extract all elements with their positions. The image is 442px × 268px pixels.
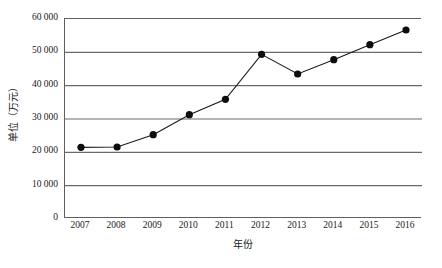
x-axis-tick-label: 2007: [71, 221, 90, 231]
x-axis-tick-label: 2012: [251, 221, 270, 231]
x-axis-tick-label: 2010: [179, 221, 198, 231]
y-axis-tick-label: 0: [53, 213, 58, 223]
y-axis-tick-label: 30 000: [32, 113, 58, 123]
y-axis-tick-labels: 010 00020 00030 00040 00050 00060 000: [18, 0, 62, 228]
x-axis-tick-label: 2011: [215, 221, 234, 231]
gridlines: [65, 52, 422, 185]
x-axis-tick-labels: 2007200820092010201120122013201420152016: [64, 221, 421, 237]
data-point: [150, 131, 157, 138]
x-axis-tick-label: 2008: [107, 221, 126, 231]
x-axis-tick-label: 2009: [143, 221, 162, 231]
line-chart-figure: 单位（万元） 010 00020 00030 00040 00050 00060…: [0, 0, 442, 268]
plot-svg: [65, 19, 422, 219]
series-polyline: [81, 30, 406, 147]
data-point: [258, 51, 265, 58]
data-point: [77, 144, 84, 151]
x-axis-tick-label: 2013: [287, 221, 306, 231]
data-point: [186, 111, 193, 118]
y-axis-tick-label: 20 000: [32, 147, 58, 157]
data-point: [330, 56, 337, 63]
data-point: [366, 41, 373, 48]
y-axis-tick-label: 40 000: [32, 80, 58, 90]
data-point: [114, 143, 121, 150]
data-point: [222, 96, 229, 103]
x-axis-tick-label: 2016: [396, 221, 415, 231]
x-axis-tick-label: 2014: [323, 221, 342, 231]
plot-area: [64, 18, 421, 218]
x-axis-title-label: 年份: [233, 239, 253, 250]
data-point: [402, 26, 409, 33]
data-point: [294, 70, 301, 77]
x-axis-title: 年份: [64, 240, 421, 250]
x-axis-tick-label: 2015: [359, 221, 378, 231]
series-markers: [77, 26, 409, 151]
y-axis-tick-label: 50 000: [32, 47, 58, 57]
y-axis-tick-label: 10 000: [32, 180, 58, 190]
series-line: [81, 30, 406, 147]
y-axis-tick-label: 60 000: [32, 13, 58, 23]
